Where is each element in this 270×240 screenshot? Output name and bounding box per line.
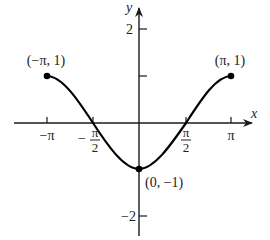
y-axis-label: y bbox=[124, 0, 133, 15]
svg-text:−: − bbox=[78, 131, 86, 146]
tick-label-half-pi: π 2 bbox=[181, 125, 191, 155]
tick-label-y-neg2: −2 bbox=[121, 209, 136, 224]
svg-text:π: π bbox=[183, 125, 190, 140]
annotation-left: (−π, 1) bbox=[27, 53, 66, 69]
point-min bbox=[136, 166, 143, 173]
annotation-right: (π, 1) bbox=[215, 53, 246, 69]
x-axis-label: x bbox=[250, 106, 258, 121]
tick-label-neg-half-pi: − π 2 bbox=[78, 125, 100, 155]
chart: y x −π π − π 2 π 2 2 −2 (−π, 1) (π, 1) (… bbox=[0, 0, 270, 240]
tick-label-pi: π bbox=[227, 128, 234, 143]
point-right bbox=[228, 73, 235, 80]
svg-text:π: π bbox=[92, 125, 99, 140]
point-left bbox=[44, 73, 51, 80]
tick-label-neg-pi: −π bbox=[40, 128, 55, 143]
tick-label-y-2: 2 bbox=[126, 22, 133, 37]
annotation-min: (0, −1) bbox=[145, 175, 184, 191]
svg-text:2: 2 bbox=[183, 140, 190, 155]
svg-text:2: 2 bbox=[92, 140, 99, 155]
